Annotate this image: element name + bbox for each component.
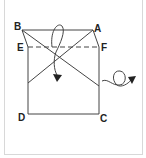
label-a: A	[94, 23, 101, 34]
label-c: C	[100, 113, 107, 124]
fold-arrowhead-icon	[53, 74, 62, 82]
label-b: B	[14, 21, 21, 32]
label-e: E	[17, 42, 24, 53]
turn-over-arrow	[102, 71, 131, 86]
curved-fold-arrow	[52, 25, 64, 75]
paper-outline	[28, 47, 99, 114]
diagonal-crease-b	[22, 30, 99, 86]
origami-diagram: B A E F D C	[0, 0, 146, 158]
turn-over-arrowhead-icon	[128, 76, 136, 84]
label-f: F	[101, 42, 107, 53]
label-d: D	[18, 112, 25, 123]
